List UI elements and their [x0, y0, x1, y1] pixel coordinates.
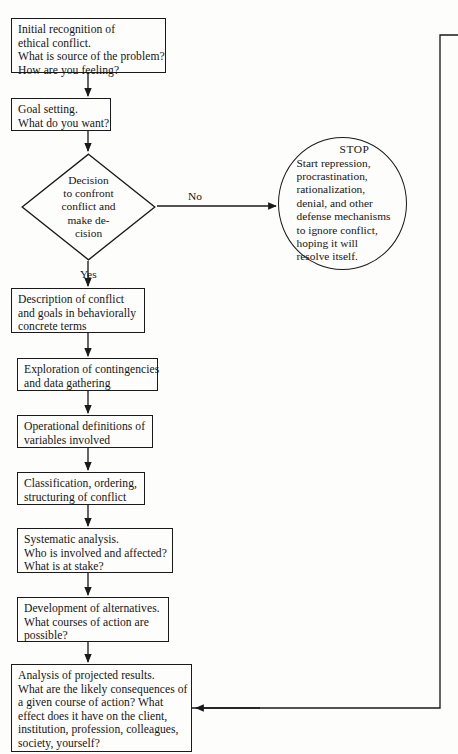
node-text-line: Classification, ordering, [24, 477, 138, 491]
node-text-line: Operational definitions of [24, 420, 146, 434]
node-text-line: conflict and [61, 200, 115, 213]
node-text-line: Initial recognition of [18, 23, 159, 37]
node-text-line: ethical conflict. [18, 37, 159, 51]
node-text-line: and goals in behaviorally [18, 307, 138, 321]
node-text-line: Goal setting. [18, 103, 104, 117]
node-text-line: concrete terms [18, 320, 138, 334]
node-text-line: Who is involved and affected? [24, 547, 166, 561]
node-text-line: What do you want? [18, 117, 104, 131]
node-text-line: How are you feeling? [18, 64, 159, 78]
node-text-line: to confront [61, 187, 115, 200]
node-text-line: resolve itself. [297, 250, 391, 263]
node-text-line: What is source of the problem? [18, 50, 159, 64]
node-analysis-projected-results: Analysis of projected results. What are … [11, 664, 192, 752]
diamond-text: Decision to confront conflict and make d… [61, 174, 115, 240]
node-text-line: What courses of action are [24, 616, 162, 630]
edge-label-no: No [188, 190, 202, 202]
node-text-line: hoping it will [297, 237, 391, 250]
node-text-line: Development of alternatives. [24, 602, 162, 616]
node-text-line: What are the likely consequences of [18, 683, 185, 697]
node-systematic-analysis: Systematic analysis. Who is involved and… [17, 528, 173, 573]
stop-circle-text: STOP Start repression, procrastination, … [295, 143, 391, 264]
node-operational-definitions: Operational definitions of variables inv… [17, 415, 153, 448]
node-text-line: society, yourself? [18, 737, 185, 751]
node-text-line: What is at stake? [24, 560, 166, 574]
node-text-line: Start repression, [297, 157, 391, 170]
node-text-line: defense mechanisms [297, 210, 391, 223]
node-text-line: Description of conflict [18, 293, 138, 307]
node-decision-confront: Decision to confront conflict and make d… [21, 153, 156, 261]
node-exploration-contingencies: Exploration of contingencies and data ga… [17, 358, 158, 391]
node-text-line: Exploration of contingencies [24, 363, 151, 377]
node-text-line: rationalization, [297, 183, 391, 196]
node-text-line: make de- [61, 214, 115, 227]
node-goal-setting: Goal setting. What do you want? [11, 98, 111, 131]
stop-heading: STOP [297, 143, 391, 156]
node-stop-circle: STOP Start repression, procrastination, … [278, 137, 407, 270]
node-text-line: variables involved [24, 434, 146, 448]
node-text-line: structuring of conflict [24, 491, 138, 505]
node-initial-recognition: Initial recognition of ethical conflict.… [11, 18, 166, 73]
node-text-line: a given course of action? What [18, 696, 185, 710]
node-text-line: effect does it have on the client, [18, 710, 185, 724]
node-text-line: institution, profession, colleagues, [18, 723, 185, 737]
node-text-line: and data gathering [24, 377, 151, 391]
node-text-line: possible? [24, 629, 162, 643]
edge-return-loop [192, 35, 458, 708]
node-text-line: Decision [61, 174, 115, 187]
edge-label-yes: Yes [80, 268, 97, 280]
node-text-line: cision [61, 227, 115, 240]
node-text-line: denial, and other [297, 197, 391, 210]
node-text-line: procrastination, [297, 170, 391, 183]
node-text-line: Analysis of projected results. [18, 669, 185, 683]
node-text-line: Systematic analysis. [24, 533, 166, 547]
flowchart-page: Initial recognition of ethical conflict.… [0, 0, 458, 754]
node-text-line: to ignore conflict, [297, 224, 391, 237]
node-classification-ordering: Classification, ordering, structuring of… [17, 472, 145, 505]
node-development-alternatives: Development of alternatives. What course… [17, 597, 169, 642]
node-description-of-conflict: Description of conflict and goals in beh… [11, 288, 145, 333]
